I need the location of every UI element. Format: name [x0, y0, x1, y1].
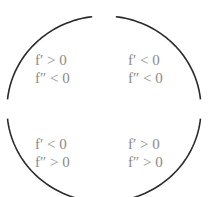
second-derivative-sign: f″ > 0	[128, 153, 163, 171]
first-derivative-sign: f′ > 0	[128, 135, 163, 153]
circle-diagram	[0, 0, 209, 197]
second-derivative-sign: f″ > 0	[35, 153, 70, 171]
quadrant-top-right-label: f′ < 0 f″ < 0	[128, 51, 163, 87]
first-derivative-sign: f′ < 0	[35, 135, 70, 153]
second-derivative-sign: f″ < 0	[128, 69, 163, 87]
first-derivative-sign: f′ > 0	[35, 51, 70, 69]
quadrant-bottom-left-label: f′ < 0 f″ > 0	[35, 135, 70, 171]
quadrant-top-left-label: f′ > 0 f″ < 0	[35, 51, 70, 87]
second-derivative-sign: f″ < 0	[35, 69, 70, 87]
first-derivative-sign: f′ < 0	[128, 51, 163, 69]
quadrant-bottom-right-label: f′ > 0 f″ > 0	[128, 135, 163, 171]
